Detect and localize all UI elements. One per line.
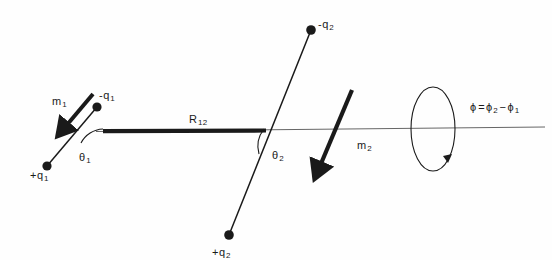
label-angle-theta1: θ1 <box>79 148 91 165</box>
label-angle-theta2: θ2 <box>272 146 284 163</box>
charge-dot-minus-q2 <box>306 25 316 35</box>
label-charge-plus-q1: +q1 <box>30 166 49 183</box>
label-moment-m2: m2 <box>357 136 372 153</box>
charge-dot-plus-q2 <box>224 230 234 240</box>
moment-vector-m1 <box>66 94 93 126</box>
label-moment-m1: m1 <box>52 92 67 109</box>
label-charge-minus-q2: -q2 <box>318 15 334 32</box>
rotation-direction-arrowhead <box>443 154 452 163</box>
separation-bar-r12 <box>103 131 266 132</box>
label-separation-r12: R12 <box>189 110 207 127</box>
charge-dot-minus-q1 <box>92 102 101 111</box>
moment-vector-m2 <box>320 90 352 166</box>
label-charge-plus-q2: +q2 <box>212 243 231 260</box>
dipole-interaction-figure: m1 -q1 +q1 θ1 R12 -q2 +q2 θ2 m2 ϕ=ϕ2−ϕ1 <box>0 0 552 260</box>
label-azimuthal-angle-equation: ϕ=ϕ2−ϕ1 <box>470 98 519 115</box>
label-charge-minus-q1: -q1 <box>99 86 115 103</box>
figure-vector-canvas <box>0 0 552 260</box>
